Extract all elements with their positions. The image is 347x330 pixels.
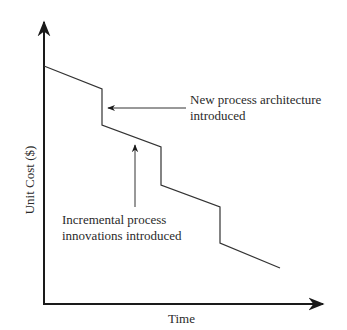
architecture-annotation: New process architecture introduced <box>190 92 321 124</box>
x-axis-label: Time <box>168 311 195 327</box>
cost-curve-diagram <box>0 0 347 330</box>
architecture-annotation-line1: New process architecture <box>190 92 321 108</box>
incremental-annotation-line1: Incremental process <box>62 212 182 228</box>
incremental-annotation: Incremental process innovations introduc… <box>62 212 182 244</box>
architecture-annotation-line2: introduced <box>190 108 321 124</box>
y-axis-label: Unit Cost ($) <box>22 146 38 215</box>
incremental-annotation-line2: innovations introduced <box>62 228 182 244</box>
